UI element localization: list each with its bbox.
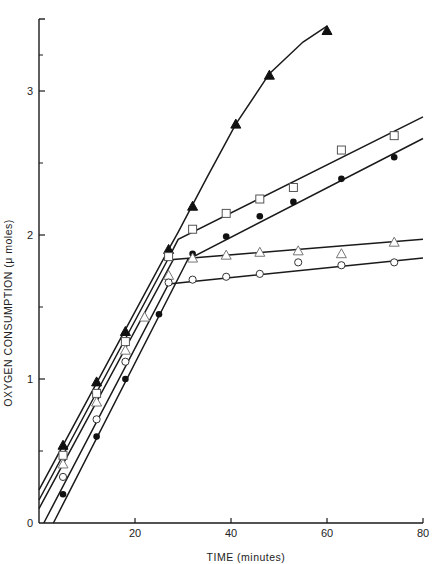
fit-line-open-triangle — [39, 239, 423, 508]
x-tick-label: 60 — [321, 527, 333, 539]
marker-filled-triangle — [164, 244, 174, 253]
marker-open-square — [390, 132, 398, 140]
marker-open-circle — [93, 416, 100, 423]
marker-filled-circle — [290, 199, 297, 206]
marker-open-square — [256, 195, 264, 203]
marker-filled-triangle — [264, 70, 274, 79]
x-axis-title: TIME (minutes) — [207, 551, 286, 563]
y-tick-label: 1 — [27, 373, 33, 385]
marker-filled-circle — [93, 433, 100, 440]
marker-filled-circle — [60, 491, 67, 498]
y-tick-label: 3 — [27, 85, 33, 97]
fit-line-open-square — [39, 117, 423, 500]
marker-filled-circle — [257, 213, 264, 220]
y-tick-label: 0 — [27, 517, 33, 529]
marker-filled-triangle — [58, 440, 68, 449]
marker-open-square — [222, 209, 230, 217]
marker-open-triangle — [336, 249, 346, 258]
marker-filled-triangle — [92, 377, 102, 386]
marker-open-circle — [122, 358, 129, 365]
marker-filled-triangle — [322, 26, 332, 35]
marker-open-circle — [223, 273, 230, 280]
y-tick-label: 2 — [27, 229, 33, 241]
marker-open-triangle — [140, 312, 150, 321]
marker-open-circle — [391, 259, 398, 266]
x-tick-label: 40 — [225, 527, 237, 539]
marker-open-circle — [256, 270, 263, 277]
x-tick-label: 20 — [129, 527, 141, 539]
marker-filled-circle — [391, 154, 398, 161]
marker-open-circle — [189, 276, 196, 283]
marker-open-circle — [59, 473, 66, 480]
marker-filled-triangle — [188, 201, 198, 210]
chart-canvas: 204060800123 TIME (minutes) OXYGEN CONSU… — [0, 0, 446, 564]
marker-open-circle — [295, 259, 302, 266]
marker-open-circle — [165, 279, 172, 286]
marker-open-circle — [338, 262, 345, 269]
fit-line-filled-circle — [53, 139, 423, 524]
marker-open-square — [189, 225, 197, 233]
x-tick-label: 80 — [417, 527, 429, 539]
marker-open-square — [165, 253, 173, 261]
marker-filled-circle — [156, 311, 163, 318]
marker-filled-triangle — [231, 119, 241, 128]
fit-lines — [39, 26, 423, 523]
y-axis-title: OXYGEN CONSUMPTION (μ moles) — [2, 219, 14, 406]
marker-filled-circle — [338, 176, 345, 183]
marker-filled-circle — [122, 376, 129, 383]
marker-open-square — [289, 183, 297, 191]
marker-open-square — [337, 146, 345, 154]
marker-filled-circle — [223, 233, 230, 240]
data-markers — [58, 26, 399, 498]
